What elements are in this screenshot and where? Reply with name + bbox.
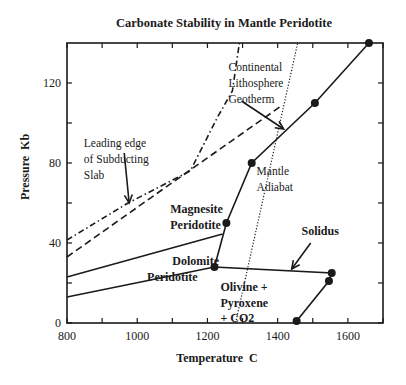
annotation-label: Geotherm	[229, 93, 275, 105]
chart-title: Carbonate Stability in Mantle Peridotite	[116, 16, 332, 30]
series-line	[67, 105, 283, 257]
data-marker	[365, 39, 373, 47]
solidus-arrow	[292, 243, 311, 269]
data-marker	[248, 159, 256, 167]
x-tick-label: 800	[58, 329, 76, 343]
annotation-label: Lithosphere	[229, 77, 284, 90]
x-tick-label: 1000	[125, 329, 149, 343]
annotation-label: Peridotite	[147, 270, 198, 284]
data-marker	[328, 269, 336, 277]
x-axis-label: Temperature C	[176, 351, 257, 365]
annotation-label: Magnesite	[170, 202, 223, 216]
annotation-label: Continental	[229, 61, 283, 73]
x-tick-label: 1400	[266, 329, 290, 343]
y-tick-label: 40	[49, 236, 61, 250]
annotation-label: of Subducting	[84, 153, 149, 166]
y-tick-label: 80	[49, 156, 61, 170]
annotation-label: Slab	[84, 169, 105, 181]
x-tick-label: 1600	[336, 329, 360, 343]
data-marker	[293, 317, 301, 325]
annotation-label: + CO2	[220, 311, 254, 325]
data-marker	[311, 99, 319, 107]
x-tick-label: 1200	[195, 329, 219, 343]
y-tick-label: 0	[55, 316, 61, 330]
annotation-label: Adiabat	[257, 181, 294, 193]
data-marker	[325, 277, 333, 285]
y-axis-label: Pressure Kb	[18, 134, 32, 201]
annotation-label: Solidus	[302, 224, 340, 238]
annotation-label: Mantle	[257, 165, 290, 177]
data-marker	[222, 219, 230, 227]
annotation-label: Pyroxene	[220, 296, 268, 310]
phase-diagram-chart: Carbonate Stability in Mantle Peridotite…	[0, 0, 406, 385]
annotation-label: Olivine +	[220, 280, 267, 294]
annotation-label: Leading edge	[84, 137, 146, 150]
annotation-label: Peridotite	[170, 218, 221, 232]
y-tick-label: 120	[43, 76, 61, 90]
annotation-label: Dolomite	[172, 254, 219, 268]
geotherm-arrow	[242, 101, 284, 129]
